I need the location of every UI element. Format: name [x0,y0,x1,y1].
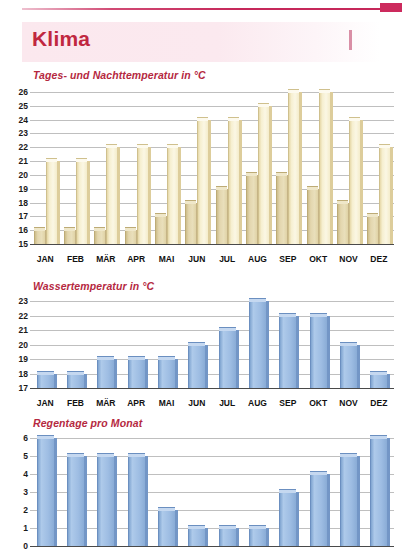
bar-slot [333,295,363,410]
bar-slot [212,86,242,266]
bar [288,92,299,244]
bar [279,316,296,389]
month-label: MÄR [96,398,115,408]
bar-slot [121,432,151,550]
bar-slot [182,86,212,266]
bar [46,161,57,244]
bar [249,528,266,546]
y-tick-label: 23 [19,296,28,306]
bar-slot [364,86,394,266]
y-tick-label: 17 [19,211,28,221]
y-tick-label: 25 [19,101,28,111]
bar-group [30,432,394,550]
bar [197,120,208,244]
top-rule [22,8,380,10]
month-label: SEP [279,398,296,408]
bar [167,147,178,244]
bar-slot [212,432,242,550]
bar-slot [151,86,181,266]
bar-slot [273,86,303,266]
bar [307,189,318,244]
month-label: AUG [248,254,267,264]
section-title-water: Wassertemperatur in °C [33,280,154,292]
bar [97,456,114,546]
bar-slot [91,295,121,410]
month-label: OKT [309,398,327,408]
month-label: APR [127,398,145,408]
bar [379,147,390,244]
bar [249,301,266,388]
y-tick-label: 21 [19,156,28,166]
bar-slot [333,432,363,550]
bar-slot [212,295,242,410]
bar-slot [151,432,181,550]
header-side-mark [349,30,352,50]
month-label: MAI [159,398,175,408]
bar [370,374,387,389]
bar [340,456,357,546]
bar-group [30,86,394,266]
y-tick-label: 22 [19,142,28,152]
bar [34,230,45,244]
bar [219,528,236,546]
bar [64,230,75,244]
bar [349,120,360,244]
y-tick-label: 22 [19,311,28,321]
y-axis-labels: 0123456 [0,432,30,550]
y-tick-label: 18 [19,369,28,379]
bar-slot [364,432,394,550]
bar [37,374,54,389]
bar [219,330,236,388]
y-tick-label: 24 [19,115,28,125]
bar [76,161,87,244]
y-tick-label: 5 [23,451,28,461]
bar [228,120,239,244]
bar [125,230,136,244]
bar [106,147,117,244]
bar [367,216,378,244]
month-label: AUG [248,398,267,408]
bar-slot [273,295,303,410]
month-label: MÄR [96,254,115,264]
y-tick-label: 4 [23,469,28,479]
y-tick-label: 20 [19,170,28,180]
bar-slot [303,86,333,266]
bar [188,528,205,546]
section-title-temperature: Tages- und Nachttemperatur in °C [33,69,206,81]
bar [158,359,175,388]
month-label: DEZ [370,254,387,264]
bar [97,359,114,388]
bar-slot [333,86,363,266]
y-tick-label: 18 [19,198,28,208]
bar [158,510,175,546]
month-label: SEP [279,254,296,264]
y-tick-label: 19 [19,184,28,194]
bar-slot [60,432,90,550]
bar [258,106,269,244]
bar-slot [151,295,181,410]
y-tick-label: 3 [23,487,28,497]
bar-slot [242,432,272,550]
bar-slot [60,295,90,410]
bar [276,175,287,244]
bar [37,438,54,546]
month-label: DEZ [370,398,387,408]
bar [128,359,145,388]
bar-slot [242,86,272,266]
bar [185,203,196,244]
chart-rain-days: 0123456 [0,432,402,550]
y-tick-label: 16 [19,225,28,235]
month-label: JUN [188,398,205,408]
bar-slot [91,86,121,266]
month-label: FEB [67,398,84,408]
x-axis-month-labels: JANFEBMÄRAPRMAIJUNJULAUGSEPOKTNOVDEZ [30,254,394,268]
month-label: APR [127,254,145,264]
y-tick-label: 1 [23,523,28,533]
bar-slot [364,295,394,410]
bar [128,456,145,546]
bar [370,438,387,546]
bar-slot [303,432,333,550]
month-label: JUL [219,254,235,264]
bar-slot [30,86,60,266]
bar-slot [30,295,60,410]
